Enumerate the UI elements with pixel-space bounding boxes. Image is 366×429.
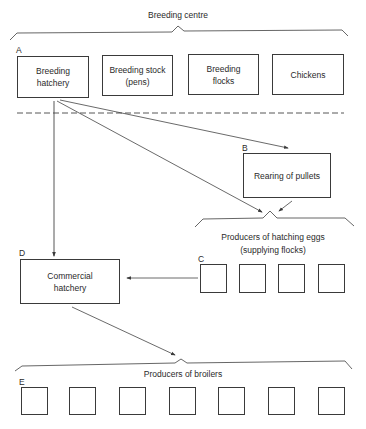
- arrow-a-to-c: [57, 101, 262, 212]
- breeding-flocks-box: Breeding flocks: [188, 54, 259, 95]
- broiler-producer-unit: [119, 387, 146, 415]
- arrow-a-to-b: [60, 100, 288, 148]
- commercial-hatchery-text: Commercial hatchery: [40, 270, 100, 294]
- hatching-eggs-heading-line1: Producers of hatching eggs: [200, 231, 346, 243]
- hatching-eggs-brace: [195, 211, 354, 227]
- broiler-producer-unit: [21, 387, 48, 415]
- hatching-eggs-heading-line2: (supplying flocks): [200, 244, 346, 256]
- hatching-egg-producer-unit: [200, 264, 227, 293]
- broiler-producer-unit: [318, 387, 345, 415]
- rearing-pullets-text: Rearing of pullets: [254, 170, 320, 182]
- arrow-b-to-c: [279, 201, 292, 211]
- label-d: D: [19, 248, 25, 258]
- breeding-centre-title: Breeding centre: [118, 9, 238, 21]
- chickens-text: Chickens: [291, 69, 326, 81]
- label-e: E: [19, 377, 25, 387]
- hatching-egg-producer-unit: [318, 264, 345, 293]
- commercial-hatchery-box: Commercial hatchery: [20, 259, 120, 304]
- breeding-stock-text: Breeding stock (pens): [108, 64, 168, 88]
- label-c: C: [198, 254, 204, 264]
- rearing-pullets-box: Rearing of pullets: [243, 153, 331, 198]
- breeding-flocks-text: Breeding flocks: [202, 63, 246, 87]
- hatching-egg-producer-unit: [239, 264, 266, 293]
- chickens-box: Chickens: [272, 54, 344, 95]
- hatching-eggs-heading: Producers of hatching eggs (supplying fl…: [200, 231, 346, 256]
- broiler-producer-unit: [268, 387, 295, 415]
- label-b: B: [242, 143, 248, 153]
- broiler-producer-unit: [69, 387, 96, 415]
- label-a: A: [16, 45, 22, 55]
- breeding-hatchery-box: Breeding hatchery: [17, 56, 89, 98]
- breeding-stock-box: Breeding stock (pens): [102, 55, 173, 96]
- breeding-centre-brace: [10, 26, 348, 40]
- broilers-heading: Producers of broilers: [118, 368, 248, 380]
- broiler-producer-unit: [169, 387, 196, 415]
- broiler-producer-unit: [218, 387, 245, 415]
- breeding-hatchery-text: Breeding hatchery: [23, 65, 83, 89]
- hatching-egg-producer-unit: [278, 264, 305, 293]
- arrow-d-to-e: [72, 307, 175, 355]
